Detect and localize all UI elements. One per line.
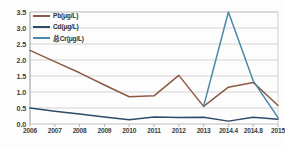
series-line — [30, 50, 278, 106]
x-axis-tick-label: 2009 — [97, 127, 111, 134]
legend-item[interactable]: Cd(μg/L) — [33, 21, 105, 32]
x-axis-tick-label: 2012 — [172, 127, 186, 134]
series-point — [29, 107, 31, 109]
x-axis-tick-label: 2008 — [73, 127, 87, 134]
y-axis-tick-label: 1.5 — [17, 72, 26, 81]
y-axis-tick-label: 2.5 — [17, 40, 26, 49]
x-axis-tick-label: 2013 — [197, 127, 211, 134]
legend-color-swatch — [33, 15, 50, 17]
y-axis-tick-label: 3.0 — [17, 24, 26, 33]
legend-color-swatch — [33, 37, 50, 39]
legend-label: 总Cr(μg/L) — [53, 33, 84, 43]
y-axis-tick-label: 1.0 — [17, 88, 26, 97]
x-axis-tick-labels: 200620072008200920102011201220132014.420… — [30, 127, 278, 143]
y-axis-tick-label: 2.0 — [17, 56, 26, 65]
series-line — [204, 12, 278, 118]
legend-label: Cd(μg/L) — [53, 23, 79, 30]
y-axis-tick-label: 0.5 — [17, 104, 26, 113]
legend-label: Pb(μg/L) — [53, 12, 78, 19]
x-axis-tick-label: 2014.4 — [219, 127, 238, 134]
x-axis-tick-label: 2006 — [23, 127, 37, 134]
legend-color-swatch — [33, 26, 50, 28]
legend-item[interactable]: Pb(μg/L) — [33, 10, 105, 21]
x-axis-tick-label: 2015 — [271, 127, 285, 134]
y-axis-tick-labels: 0.00.51.01.52.02.53.03.5 — [0, 12, 29, 124]
x-axis-tick-label: 2014.8 — [244, 127, 263, 134]
line-chart: 0.00.51.01.52.02.53.03.5 Pb(μg/L)Cd(μg/L… — [0, 0, 285, 147]
series-line — [30, 108, 278, 121]
x-axis-tick-label: 2011 — [147, 127, 161, 134]
y-axis-tick-label: 3.5 — [17, 8, 26, 17]
x-axis-tick-label: 2007 — [48, 127, 62, 134]
legend-item[interactable]: 总Cr(μg/L) — [33, 32, 105, 43]
x-axis-tick-label: 2010 — [122, 127, 136, 134]
chart-legend: Pb(μg/L)Cd(μg/L)总Cr(μg/L) — [33, 9, 105, 44]
